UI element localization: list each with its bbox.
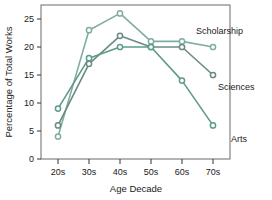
y-axis-title: Percentage of Total Works [3, 26, 14, 137]
data-point-marker [210, 44, 215, 49]
x-axis-title: Age Decade [110, 183, 162, 194]
data-point-marker [55, 106, 60, 111]
y-tick-label: 10 [24, 98, 34, 108]
data-point-marker [148, 44, 153, 49]
x-axis-ticks: 20s30s40s50s60s70s [51, 159, 221, 177]
data-point-marker [210, 72, 215, 77]
chart-figure: 0510152025 20s30s40s50s60s70s Scholarshi… [0, 0, 272, 200]
series-lines [58, 13, 213, 136]
x-tick-label: 50s [144, 167, 159, 177]
data-point-marker [117, 44, 122, 49]
data-point-marker [55, 134, 60, 139]
x-tick-label: 30s [82, 167, 97, 177]
x-tick-label: 20s [51, 167, 66, 177]
x-tick-label: 70s [206, 167, 221, 177]
series-labels: ScholarshipSciencesArts [196, 26, 255, 144]
series-label-sciences: Sciences [218, 82, 255, 92]
series-label-scholarship: Scholarship [196, 26, 243, 36]
x-tick-label: 40s [113, 167, 128, 177]
data-point-marker [179, 44, 184, 49]
y-tick-label: 20 [24, 42, 34, 52]
series-label-arts: Arts [231, 134, 248, 144]
data-point-marker [86, 56, 91, 61]
y-tick-label: 0 [29, 154, 34, 164]
data-point-marker [179, 39, 184, 44]
x-tick-label: 60s [175, 167, 190, 177]
y-axis-ticks: 0510152025 [24, 14, 41, 164]
y-tick-label: 5 [29, 126, 34, 136]
data-point-marker [148, 39, 153, 44]
data-point-marker [179, 78, 184, 83]
series-line-sciences [58, 36, 213, 126]
y-tick-label: 25 [24, 14, 34, 24]
data-point-marker [86, 28, 91, 33]
y-tick-label: 15 [24, 70, 34, 80]
data-point-marker [86, 61, 91, 66]
series-line-scholarship [58, 13, 213, 136]
data-point-marker [55, 123, 60, 128]
line-chart: 0510152025 20s30s40s50s60s70s Scholarshi… [0, 0, 272, 200]
data-point-marker [117, 11, 122, 16]
data-point-marker [117, 33, 122, 38]
data-point-marker [210, 123, 215, 128]
